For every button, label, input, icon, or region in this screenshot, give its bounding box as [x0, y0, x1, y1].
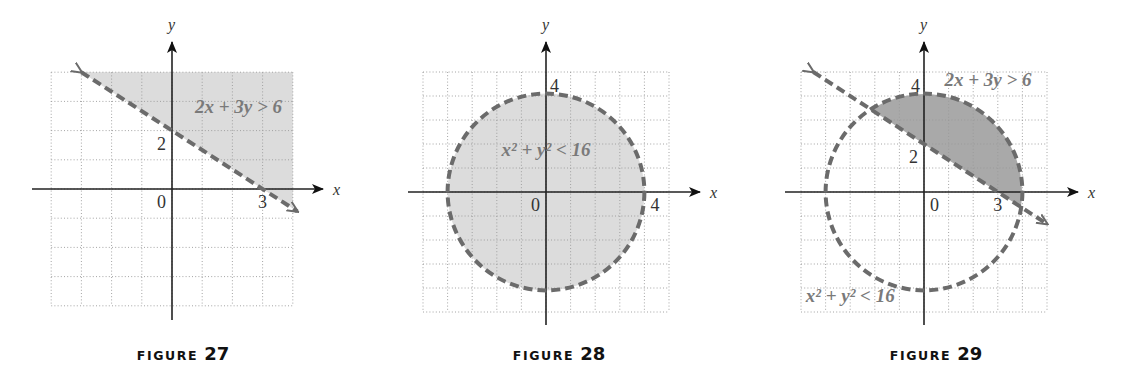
y-axis-label: y — [166, 16, 176, 34]
tick-label: 4 — [550, 76, 559, 96]
caption-number: 29 — [957, 343, 982, 364]
figure-29: xy2x + 3y > 6x² + y² < 160234FIGURE 29 — [776, 16, 1095, 364]
inequality-label: 2x + 3y > 6 — [194, 96, 283, 117]
caption-word: FIGURE — [890, 348, 957, 363]
x-axis-label: x — [1087, 184, 1095, 201]
inequality-label: x² + y² < 16 — [501, 139, 591, 160]
inequality-label: x² + y² < 16 — [805, 285, 895, 306]
figure-28: xyx² + y² < 16044FIGURE 28 — [408, 16, 717, 364]
figures-canvas: xy2x + 3y > 6023FIGURE 27 xyx² + y² < 16… — [0, 0, 1126, 375]
y-axis-label: y — [918, 16, 928, 34]
tick-label: 4 — [911, 76, 920, 96]
figure-caption: FIGURE 27 — [137, 343, 229, 364]
x-axis-label: x — [332, 181, 340, 198]
tick-label: 2 — [157, 134, 166, 154]
tick-label: 0 — [531, 195, 540, 215]
y-axis-label: y — [540, 16, 550, 34]
caption-number: 27 — [204, 343, 229, 364]
tick-label: 2 — [909, 147, 918, 167]
tick-label: 0 — [930, 195, 939, 215]
caption-word: FIGURE — [137, 348, 204, 363]
tick-label: 0 — [157, 192, 166, 212]
figure-27: xy2x + 3y > 6023FIGURE 27 — [32, 16, 340, 364]
caption-word: FIGURE — [513, 348, 580, 363]
caption-number: 28 — [580, 343, 605, 364]
inequality-label: 2x + 3y > 6 — [943, 69, 1032, 90]
figure-caption: FIGURE 28 — [513, 343, 605, 364]
tick-label: 3 — [258, 192, 267, 212]
tick-label: 3 — [993, 195, 1002, 215]
figure-caption: FIGURE 29 — [890, 343, 982, 364]
tick-label: 4 — [650, 195, 659, 215]
x-axis-label: x — [709, 184, 717, 201]
